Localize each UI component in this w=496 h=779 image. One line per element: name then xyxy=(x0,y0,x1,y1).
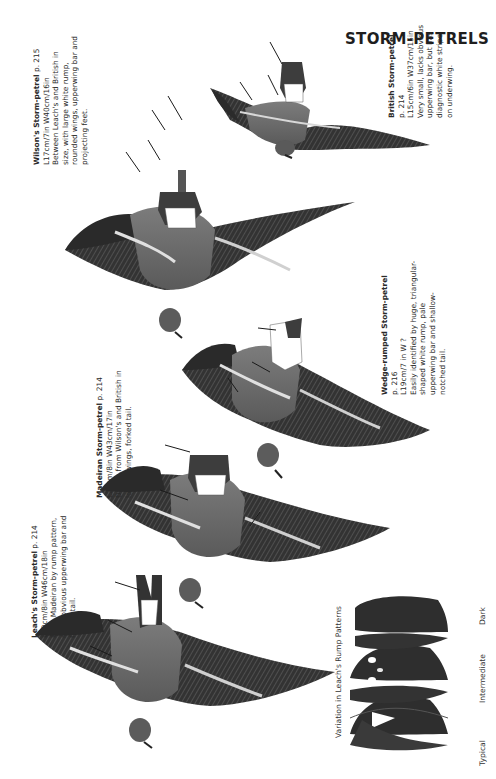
description-line: shaped white rump, pale xyxy=(418,261,428,395)
species-name: Wilson's Storm-petrel xyxy=(32,74,41,165)
description-line: Easily identified by huge, triangular- xyxy=(409,261,419,395)
description-line: more obvious upperwing bar and xyxy=(59,515,69,638)
description-line: upperwing bar and shallow- xyxy=(428,261,438,395)
rump-patterns-inset xyxy=(350,596,448,750)
description-line: Very small, lacks obvious xyxy=(416,25,426,118)
label-leachs-storm-petrel: Leach's Storm-petrel p. 214 L20cm/8in W4… xyxy=(30,515,78,638)
description-line: Between Leach's and British in xyxy=(51,36,61,165)
page-ref: p. 216 xyxy=(390,261,400,395)
label-wilsons-storm-petrel: Wilson's Storm-petrel p. 215 L17cm/7in W… xyxy=(32,36,90,165)
description-line: From Madeiran by rump pattern, xyxy=(49,515,59,638)
species-name: Leach's Storm-petrel xyxy=(30,551,39,638)
description-line: size, with large white rump, xyxy=(61,36,71,165)
measurements: L19cm/7 in W ? xyxy=(399,261,409,395)
measurements: L17cm/7in W40cm/16in xyxy=(42,36,52,165)
measurements: L15cm/6in W37cm/15in xyxy=(406,25,416,118)
species-name: Wedge-rumped Storm-petrel xyxy=(380,275,389,395)
page-ref: p. 214 xyxy=(95,377,104,401)
species-name: Madeiran Storm-petrel xyxy=(95,403,104,498)
description-line: fork to tail. xyxy=(68,515,78,638)
rump-pattern-intermediate xyxy=(350,645,448,703)
description-line: on underwing. xyxy=(445,25,455,118)
description-line: Differs from Wilson's and British in xyxy=(114,370,124,498)
description-line: longer wings, forked tail. xyxy=(124,370,134,498)
measurements: L20cm/8in W46cm/18in xyxy=(40,515,50,638)
description-line: diagnostic white stripe xyxy=(435,25,445,118)
inset-caption: Variation in Leach's Rump Patterns xyxy=(334,606,343,738)
rump-pattern-dark xyxy=(355,596,448,649)
page-ref: p. 214 xyxy=(397,25,407,118)
inset-label-intermediate: Intermediate xyxy=(478,654,487,703)
description-line: projecting feet. xyxy=(80,36,90,165)
description-line: notched tail. xyxy=(438,261,448,395)
leachs-storm-petrel-illustration xyxy=(35,575,335,748)
page-ref: p. 215 xyxy=(32,49,41,73)
label-british-storm-petrel: British Storm-petrel p. 214 L15cm/6in W3… xyxy=(387,25,454,118)
description-line: rounded wings, upperwing bar and xyxy=(70,36,80,165)
label-wedge-rumped-storm-petrel: Wedge-rumped Storm-petrel p. 216 L19cm/7… xyxy=(380,261,447,395)
page-ref: p. 214 xyxy=(30,525,39,549)
description-line: upperwing bar, but has xyxy=(425,25,435,118)
inset-label-typical: Typical xyxy=(478,740,487,766)
label-madeiran-storm-petrel: Madeiran Storm-petrel p. 214 L20cm/8in W… xyxy=(95,370,133,498)
inset-label-dark: Dark xyxy=(478,607,487,625)
species-name: British Storm-petrel xyxy=(387,35,396,118)
rump-pattern-typical xyxy=(350,696,448,750)
measurements: L20cm/8in W43cm/17in xyxy=(105,370,115,498)
